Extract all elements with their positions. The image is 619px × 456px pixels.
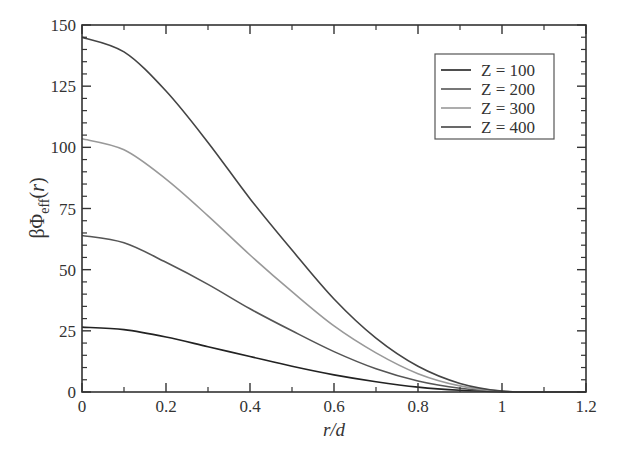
legend: Z = 100Z = 200Z = 300Z = 400 [435,54,554,139]
series-line-2 [82,235,586,392]
series-line-1 [82,327,586,392]
y-tick-label: 50 [59,261,76,280]
y-tick-label: 0 [68,383,77,402]
x-tick-label: 1.2 [575,397,596,416]
y-tick-label: 100 [51,138,77,157]
chart: 00.20.40.60.811.20255075100125150 Z = 10… [0,0,619,456]
svg-text:βΦeff(r): βΦeff(r) [26,177,52,238]
legend-label: Z = 100 [481,61,535,80]
legend-label: Z = 200 [481,80,535,99]
x-tick-label: 0.4 [239,397,261,416]
x-tick-label: 0.6 [323,397,344,416]
legend-label: Z = 300 [481,99,535,118]
series-line-3 [82,139,586,392]
legend-label: Z = 400 [481,118,535,137]
y-tick-label: 25 [59,322,76,341]
x-axis-label: r/d [323,419,346,440]
x-tick-label: 0.8 [407,397,428,416]
y-tick-label: 150 [51,16,77,35]
x-tick-label: 0.2 [155,397,176,416]
y-axis-label: βΦeff(r) [26,177,52,238]
y-tick-label: 125 [51,77,77,96]
x-tick-label: 0 [78,397,87,416]
y-tick-label: 75 [59,200,76,219]
x-tick-label: 1 [498,397,507,416]
